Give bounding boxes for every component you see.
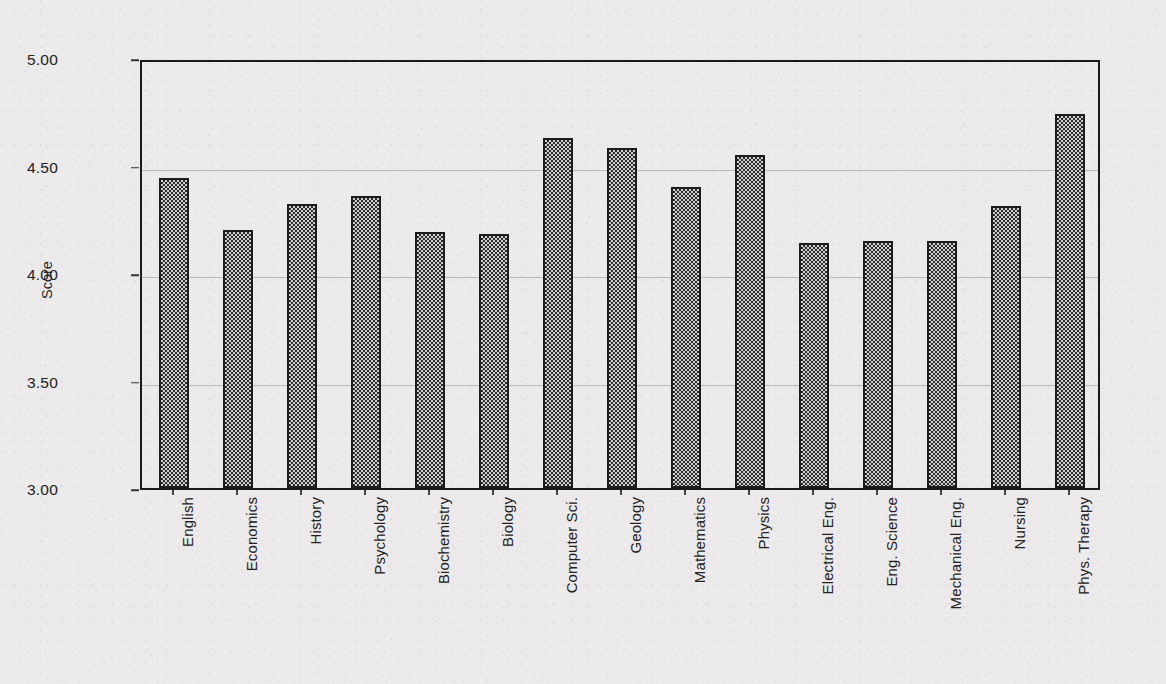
x-axis-tick-mark bbox=[492, 490, 494, 495]
y-axis-tick-label: 3.00 bbox=[0, 481, 58, 499]
bar[interactable] bbox=[223, 230, 253, 488]
y-axis-tick-mark bbox=[131, 489, 139, 491]
x-axis-tick-label: Geology bbox=[627, 497, 644, 554]
x-axis-tick-mark bbox=[236, 490, 238, 495]
x-axis-tick-mark bbox=[876, 490, 878, 495]
x-axis-tick-mark bbox=[684, 490, 686, 495]
x-axis-tick-mark bbox=[172, 490, 174, 495]
x-axis-tick-label: Biochemistry bbox=[435, 497, 452, 584]
y-axis-tick-label: 4.50 bbox=[0, 159, 58, 177]
y-axis-tick-mark bbox=[131, 59, 139, 61]
y-axis-tick-label: 4.00 bbox=[0, 266, 58, 284]
bars-group bbox=[142, 62, 1098, 488]
x-axis-tick-label: Phys. Therapy bbox=[1075, 497, 1092, 595]
bar-chart-figure: Score 5.004.504.003.503.00EnglishEconomi… bbox=[0, 0, 1166, 684]
x-axis-tick-mark bbox=[300, 490, 302, 495]
bar[interactable] bbox=[671, 187, 701, 488]
x-axis-tick-mark bbox=[364, 490, 366, 495]
y-axis-tick-mark bbox=[131, 274, 139, 276]
x-axis-tick-label: Nursing bbox=[1011, 497, 1028, 549]
y-axis-tick-label: 3.50 bbox=[0, 374, 58, 392]
bar[interactable] bbox=[1055, 114, 1085, 488]
bar[interactable] bbox=[991, 206, 1021, 488]
x-axis-tick-label: English bbox=[179, 497, 196, 547]
x-axis-tick-label: Physics bbox=[755, 497, 772, 549]
bar[interactable] bbox=[927, 241, 957, 488]
bar[interactable] bbox=[863, 241, 893, 488]
x-axis-tick-mark bbox=[620, 490, 622, 495]
y-axis-tick-mark bbox=[131, 167, 139, 169]
x-axis-tick-label: History bbox=[307, 497, 324, 544]
x-axis-tick-label: Biology bbox=[499, 497, 516, 547]
x-axis-tick-label: Electrical Eng. bbox=[819, 497, 836, 594]
bar[interactable] bbox=[287, 204, 317, 488]
y-axis-tick-mark bbox=[131, 382, 139, 384]
bar[interactable] bbox=[415, 232, 445, 488]
bar[interactable] bbox=[479, 234, 509, 488]
bar[interactable] bbox=[159, 178, 189, 488]
bar[interactable] bbox=[799, 243, 829, 488]
x-axis-tick-label: Mathematics bbox=[691, 497, 708, 583]
x-axis-tick-mark bbox=[1068, 490, 1070, 495]
x-axis-tick-label: Eng. Science bbox=[883, 497, 900, 587]
x-axis-tick-mark bbox=[556, 490, 558, 495]
bar[interactable] bbox=[607, 148, 637, 488]
bar[interactable] bbox=[351, 196, 381, 488]
x-axis-tick-label: Economics bbox=[243, 497, 260, 571]
bar[interactable] bbox=[735, 155, 765, 488]
bar[interactable] bbox=[543, 138, 573, 488]
x-axis-tick-mark bbox=[748, 490, 750, 495]
x-axis-tick-mark bbox=[812, 490, 814, 495]
x-axis-tick-mark bbox=[1004, 490, 1006, 495]
y-axis-tick-label: 5.00 bbox=[0, 51, 58, 69]
x-axis-tick-mark bbox=[428, 490, 430, 495]
plot-area bbox=[140, 60, 1100, 490]
x-axis-tick-label: Computer Sci. bbox=[563, 497, 580, 593]
x-axis-tick-mark bbox=[940, 490, 942, 495]
x-axis-tick-label: Mechanical Eng. bbox=[947, 497, 964, 609]
x-axis-tick-label: Psychology bbox=[371, 497, 388, 575]
